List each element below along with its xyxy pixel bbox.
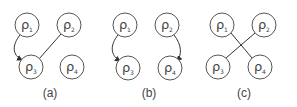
svg-text:4: 4 bbox=[74, 68, 78, 75]
svg-text:3: 3 bbox=[33, 68, 37, 75]
panel-b-label: (b) bbox=[142, 86, 157, 100]
panel-b: ρ 1 ρ 2 ρ 3 ρ 4 (b) bbox=[113, 13, 182, 100]
node-rho-2: ρ 2 bbox=[155, 13, 179, 37]
panel-c-label: (c) bbox=[237, 86, 251, 100]
node-rho-3: ρ 3 bbox=[206, 55, 230, 79]
node-rho-4: ρ 4 bbox=[158, 56, 182, 80]
edge-a-2-to-3 bbox=[39, 34, 61, 59]
panel-a: ρ 1 ρ 2 ρ 3 ρ 4 (a) bbox=[15, 13, 84, 100]
svg-text:4: 4 bbox=[262, 68, 266, 75]
svg-text:3: 3 bbox=[130, 69, 134, 76]
svg-text:1: 1 bbox=[127, 26, 131, 33]
diagram-canvas: ρ 1 ρ 2 ρ 3 ρ 4 (a) ρ 1 ρ 2 bbox=[0, 0, 297, 107]
panel-a-label: (a) bbox=[43, 86, 58, 100]
edge-c-2-to-3 bbox=[226, 33, 255, 58]
svg-text:1: 1 bbox=[29, 26, 33, 33]
node-rho-4: ρ 4 bbox=[60, 55, 84, 79]
node-rho-4: ρ 4 bbox=[248, 55, 272, 79]
node-rho-2: ρ 2 bbox=[252, 13, 276, 37]
svg-text:2: 2 bbox=[266, 26, 270, 33]
edge-c-1-to-4 bbox=[231, 33, 252, 58]
panel-c-edges bbox=[226, 33, 255, 58]
edge-b-1-to-3 bbox=[112, 35, 120, 61]
svg-text:4: 4 bbox=[172, 69, 176, 76]
node-rho-3: ρ 3 bbox=[19, 55, 43, 79]
node-rho-3: ρ 3 bbox=[116, 56, 140, 80]
node-rho-1: ρ 1 bbox=[15, 13, 39, 37]
node-rho-2: ρ 2 bbox=[57, 13, 81, 37]
node-rho-1: ρ 1 bbox=[210, 13, 234, 37]
panel-c: ρ 1 ρ 2 ρ 3 ρ 4 (c) bbox=[206, 13, 276, 100]
panel-a-edges bbox=[14, 34, 61, 60]
node-rho-1: ρ 1 bbox=[113, 13, 137, 37]
svg-text:3: 3 bbox=[220, 68, 224, 75]
edge-a-1-to-3 bbox=[14, 35, 22, 60]
svg-text:1: 1 bbox=[224, 26, 228, 33]
svg-text:2: 2 bbox=[71, 26, 75, 33]
svg-text:2: 2 bbox=[169, 26, 173, 33]
